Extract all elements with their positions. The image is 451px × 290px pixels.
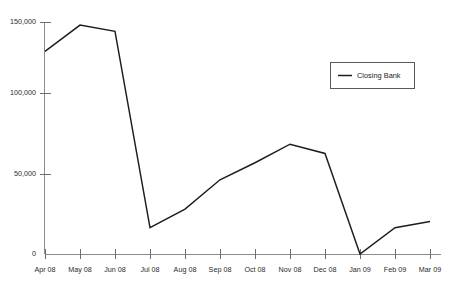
x-axis-tick-labels: Apr 08 May 08 Jun 08 Jul 08 Aug 08 Sep 0… xyxy=(34,265,441,274)
y-tick-label: 150,000 xyxy=(10,17,36,26)
x-tick-label: Mar 09 xyxy=(419,265,441,274)
x-tick-label: Jun 08 xyxy=(104,265,126,274)
x-tick-label: Feb 09 xyxy=(384,265,406,274)
y-tick-label: 100,000 xyxy=(10,88,36,97)
x-tick-label: Jan 09 xyxy=(349,265,371,274)
x-tick-label: May 08 xyxy=(68,265,92,274)
x-tick-label: Dec 08 xyxy=(314,265,337,274)
x-tick-label: Nov 08 xyxy=(279,265,302,274)
x-tick-label: Aug 08 xyxy=(174,265,197,274)
y-axis-tick-labels: 150,000 100,000 50,000 0 xyxy=(10,17,36,258)
y-tick-label: 50,000 xyxy=(14,169,36,178)
series-line-closing-bank xyxy=(45,25,430,254)
y-tick-label: 0 xyxy=(32,249,36,258)
x-tick-label: Oct 08 xyxy=(244,265,265,274)
x-tick-label: Sep 08 xyxy=(209,265,232,274)
chart-legend[interactable]: Closing Bank xyxy=(331,63,415,89)
legend-entry-label: Closing Bank xyxy=(357,71,401,80)
x-tick-label: Apr 08 xyxy=(34,265,55,274)
x-tick-label: Jul 08 xyxy=(140,265,159,274)
line-chart-container: 150,000 100,000 50,000 0 Apr 08 May 08 J… xyxy=(0,0,451,290)
chart-plot-area: 150,000 100,000 50,000 0 Apr 08 May 08 J… xyxy=(0,0,451,290)
